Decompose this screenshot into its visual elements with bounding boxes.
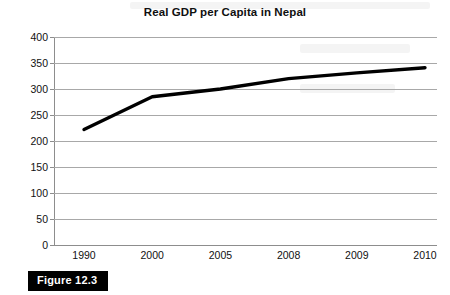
x-axis-tick-label: 2005 (190, 249, 250, 261)
x-axis-tick-label: 1990 (54, 249, 114, 261)
figure-caption: Figure 12.3 (28, 271, 108, 291)
x-axis-tick-label: 2009 (327, 249, 387, 261)
y-axis-tick-label: 100 (8, 187, 48, 199)
x-axis-tick-label: 2000 (122, 249, 182, 261)
x-axis-line (54, 245, 437, 246)
line-series-gdp (54, 37, 437, 245)
y-axis-tick-label: 50 (8, 213, 48, 225)
x-axis-labels: 199020002005200820092010 (54, 249, 437, 267)
x-axis-tick-label: 2008 (259, 249, 319, 261)
y-axis-tick-label: 400 (8, 31, 48, 43)
y-axis-tick-label: 200 (8, 135, 48, 147)
y-axis-tick-label: 150 (8, 161, 48, 173)
y-axis-tick (50, 245, 54, 246)
y-axis-tick-label: 0 (8, 239, 48, 251)
figure-gdp-nepal: Real GDP per Capita in Nepal 40035030025… (0, 0, 450, 295)
series-polyline (84, 68, 425, 130)
y-axis-tick-label: 350 (8, 57, 48, 69)
x-axis-tick-label: 2010 (395, 249, 450, 261)
y-axis-tick-label: 250 (8, 109, 48, 121)
y-axis-tick-label: 300 (8, 83, 48, 95)
chart-title: Real GDP per Capita in Nepal (0, 6, 450, 18)
